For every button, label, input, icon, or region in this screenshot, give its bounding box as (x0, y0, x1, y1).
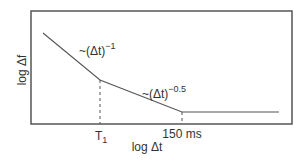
x-tick-t1: T1 (95, 129, 107, 145)
annotation-slope-1: ~(Δt)−1 (79, 41, 116, 58)
x-tick-150ms: 150 ms (162, 127, 201, 141)
x-axis-label: log Δt (132, 140, 163, 154)
annotation-slope-2: ~(Δt)−0.5 (142, 84, 186, 101)
chart: ~(Δt)−1 ~(Δt)−0.5 log Δf T1 150 ms log Δ… (0, 0, 307, 163)
plot-frame (31, 11, 292, 124)
y-axis-label: log Δf (15, 54, 29, 85)
